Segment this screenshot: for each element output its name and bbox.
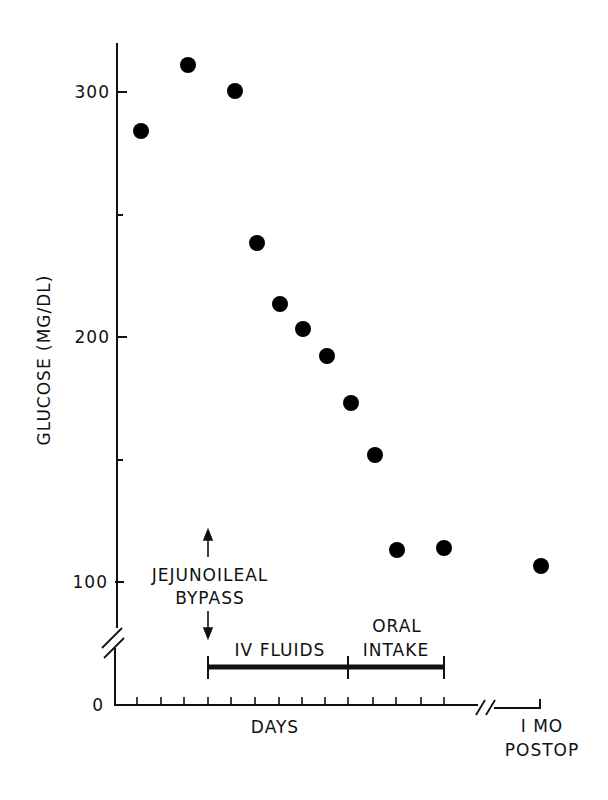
- y-axis-label: GLUCOSE (MG/DL): [34, 275, 54, 446]
- data-point: [436, 540, 452, 556]
- data-point: [249, 235, 265, 251]
- x-end-label-2: POSTOP: [505, 740, 579, 760]
- x-ticks: [137, 697, 444, 705]
- data-point: [389, 542, 405, 558]
- y-tick-300: 300: [75, 82, 110, 102]
- y-axis-break: [102, 628, 124, 658]
- x-axis-break: [476, 700, 495, 715]
- oral-label-1: ORAL: [372, 616, 422, 636]
- data-point: [319, 348, 335, 364]
- data-point: [367, 447, 383, 463]
- oral-label-2: INTAKE: [363, 640, 429, 660]
- data-point: [295, 321, 311, 337]
- data-point: [180, 57, 196, 73]
- x-end-label-1: I MO: [521, 716, 563, 736]
- data-point: [133, 123, 149, 139]
- y-tick-200: 200: [75, 327, 110, 347]
- y-tick-0: 0: [92, 695, 104, 715]
- surgery-label-2: BYPASS: [175, 588, 245, 608]
- glucose-chart: 300 200 100 0 GLUCOSE (MG/DL) DAYS I MO …: [0, 0, 608, 800]
- x-axis-label: DAYS: [251, 717, 299, 737]
- data-points: [133, 57, 549, 574]
- iv-fluids-label: IV FLUIDS: [235, 640, 326, 660]
- data-point: [533, 558, 549, 574]
- y-tick-100: 100: [73, 572, 108, 592]
- data-point: [272, 296, 288, 312]
- data-point: [227, 83, 243, 99]
- surgery-label-1: JEJUNOILEAL: [151, 565, 269, 585]
- data-point: [343, 395, 359, 411]
